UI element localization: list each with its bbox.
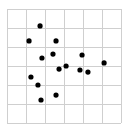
data-point [35, 82, 40, 87]
data-point [38, 97, 43, 102]
data-point [85, 69, 90, 74]
data-point [28, 74, 33, 79]
data-point [50, 51, 55, 56]
data-points [26, 23, 106, 102]
data-point [56, 66, 61, 71]
data-point [53, 92, 58, 97]
data-point [39, 55, 44, 60]
data-point [63, 63, 68, 68]
data-point [53, 38, 58, 43]
data-point [77, 67, 82, 72]
data-point [101, 60, 106, 65]
data-point [37, 23, 42, 28]
data-point [79, 52, 84, 57]
data-point [26, 38, 31, 43]
scatter-plot [0, 0, 123, 129]
